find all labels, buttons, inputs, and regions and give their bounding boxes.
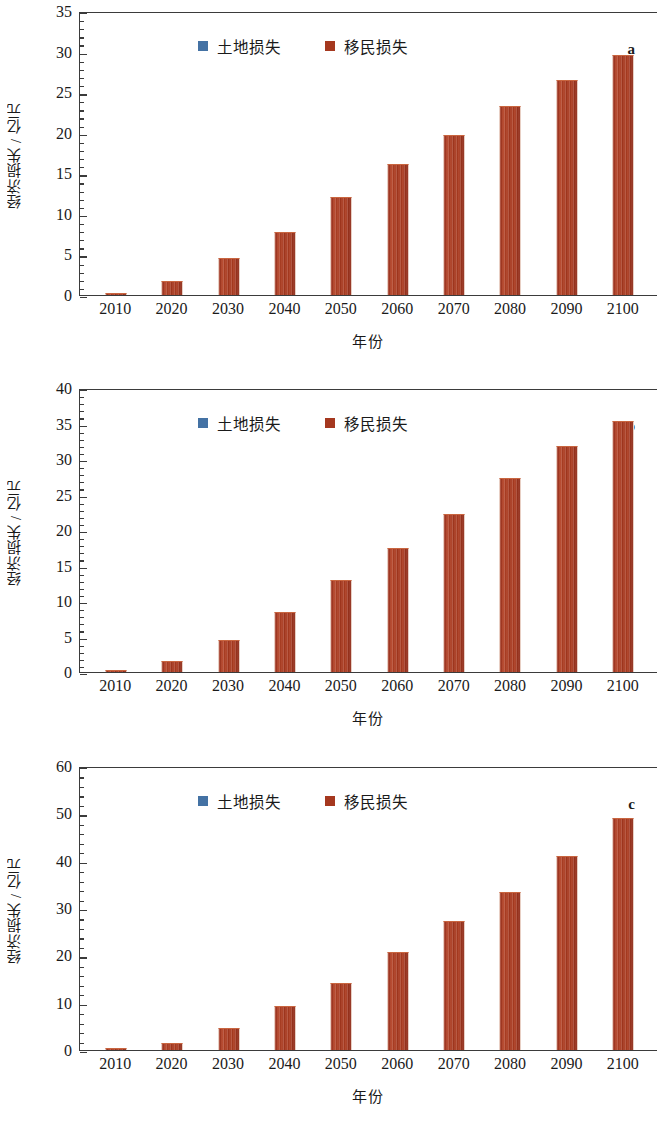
y-axis-minor-tick [80, 418, 84, 419]
x-axis-tick-label: 2080 [482, 1055, 538, 1081]
x-axis-tick-label: 2060 [369, 677, 425, 703]
y-axis-minor-tick [80, 265, 84, 266]
x-axis-tick-label: 2090 [538, 1055, 594, 1081]
y-axis-minor-tick [80, 919, 84, 920]
y-axis-minor-tick [80, 929, 84, 930]
y-axis-tick-label: 40 [56, 381, 72, 397]
bar-slot [482, 390, 538, 672]
y-axis-minor-tick [80, 454, 84, 455]
x-axis-tick-label: 2060 [369, 300, 425, 326]
y-axis-tick-label: 40 [56, 854, 72, 870]
y-axis-minor-tick [80, 667, 84, 668]
y-axis-tick-label: 5 [64, 630, 72, 646]
y-axis-minor-tick [80, 143, 84, 144]
y-axis-minor-tick [80, 232, 84, 233]
y-axis-minor-tick [80, 183, 84, 184]
y-axis-minor-tick [80, 482, 84, 483]
y-axis-minor-tick [80, 986, 84, 987]
y-axis-minor-tick [80, 45, 84, 46]
bar [499, 478, 521, 672]
y-axis-minor-tick [80, 504, 84, 505]
y-axis-minor-tick [80, 872, 84, 873]
bar [105, 293, 127, 295]
y-axis-minor-tick [80, 151, 84, 152]
y-axis-minor-tick [80, 1024, 84, 1025]
y-axis-minor-tick [80, 539, 84, 540]
y-axis-minor-tick [80, 29, 84, 30]
bar-group [80, 768, 657, 1050]
y-axis-tick-label: 25 [56, 85, 72, 101]
y-axis-title: 经济损失 / 亿元 [2, 801, 28, 1021]
y-axis-tick-label: 10 [56, 207, 72, 223]
bar-slot [257, 13, 313, 295]
y-axis-major-tick [80, 256, 87, 257]
y-axis-minor-tick [80, 631, 84, 632]
y-axis-minor-tick [80, 411, 84, 412]
y-axis-tick-label: 30 [56, 45, 72, 61]
y-axis-major-tick [80, 674, 87, 675]
y-axis-minor-tick [80, 118, 84, 119]
bar-slot [88, 768, 144, 1050]
bar-group [80, 390, 657, 672]
y-axis-minor-tick [80, 653, 84, 654]
y-axis-minor-tick [80, 518, 84, 519]
bar [612, 55, 634, 295]
y-axis-major-tick [80, 910, 87, 911]
bar [556, 80, 578, 295]
bar [274, 232, 296, 295]
bar-group [80, 13, 657, 295]
bar-slot [313, 390, 369, 672]
x-axis-tick-label: 2020 [143, 1055, 199, 1081]
y-axis-minor-tick [80, 806, 84, 807]
x-axis-tick-label: 2080 [482, 300, 538, 326]
x-axis-tick-label: 2100 [595, 300, 651, 326]
y-axis-minor-tick [80, 646, 84, 647]
x-axis-tick-label: 2090 [538, 677, 594, 703]
bar [387, 548, 409, 672]
bar [556, 446, 578, 672]
y-axis-major-tick [80, 94, 87, 95]
bar-slot [201, 13, 257, 295]
bar-slot [144, 13, 200, 295]
y-axis-tick-label: 35 [56, 417, 72, 433]
bar-slot [201, 768, 257, 1050]
y-axis-minor-tick [80, 159, 84, 160]
y-axis-minor-tick [80, 976, 84, 977]
y-axis-minor-tick [80, 834, 84, 835]
bar [330, 983, 352, 1050]
x-axis-tick-label: 2020 [143, 677, 199, 703]
y-axis-minor-tick [80, 78, 84, 79]
bar [443, 514, 465, 672]
bar-slot [144, 390, 200, 672]
bar-slot [595, 390, 651, 672]
y-axis-major-tick [80, 135, 87, 136]
bar [105, 1048, 127, 1050]
bar-slot [369, 13, 425, 295]
y-axis-minor-tick [80, 948, 84, 949]
bar-slot [426, 768, 482, 1050]
y-axis-minor-tick [80, 21, 84, 22]
y-axis-minor-tick [80, 582, 84, 583]
x-axis-tick-label: 2080 [482, 677, 538, 703]
bar [556, 856, 578, 1050]
y-axis-minor-tick [80, 1043, 84, 1044]
bar-slot [538, 390, 594, 672]
y-axis-tick-label: 0 [64, 1043, 72, 1059]
y-axis-major-tick [80, 603, 87, 604]
x-axis-tick-label: 2020 [143, 300, 199, 326]
y-axis-minor-tick [80, 248, 84, 249]
x-axis-tick-label: 2050 [313, 1055, 369, 1081]
y-axis-major-tick [80, 497, 87, 498]
bar [274, 612, 296, 672]
y-axis-tick-label: 20 [56, 126, 72, 142]
y-axis-title: 经济损失 / 亿元 [2, 423, 28, 643]
y-axis-minor-tick [80, 273, 84, 274]
y-axis-minor-tick [80, 938, 84, 939]
bar [330, 197, 352, 295]
y-axis-tick-label: 10 [56, 594, 72, 610]
y-axis-minor-tick [80, 200, 84, 201]
y-axis-minor-tick [80, 468, 84, 469]
x-axis-tick-label: 2010 [87, 1055, 143, 1081]
y-axis-minor-tick [80, 853, 84, 854]
y-axis-minor-tick [80, 127, 84, 128]
